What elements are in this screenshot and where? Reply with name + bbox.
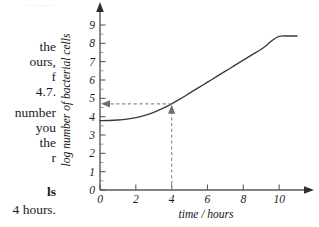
y-axis-tick-label: 8: [89, 37, 95, 49]
x-axis-title: time / hours: [179, 208, 234, 220]
vertical-guide-arrowhead: [168, 105, 175, 114]
body-text-line: the: [40, 40, 57, 54]
figure-page: ········· theours,f4.7.numberyoutherls4 …: [0, 0, 319, 227]
y-axis-tick-label: 2: [89, 147, 95, 159]
horizontal-guide-arrowhead: [101, 100, 110, 107]
x-axis-tick-label: 6: [205, 193, 211, 205]
x-axis-tick-label: 10: [273, 193, 285, 205]
y-axis-tick-label: 3: [88, 129, 95, 141]
faint-top-fragment: ·········: [25, 0, 56, 10]
y-axis-tick-label: 5: [89, 92, 95, 104]
y-axis-arrowhead: [96, 2, 104, 12]
body-text-line: ours,: [29, 55, 56, 69]
bacterial-growth-chart: 0123456789 0246810 log number of bacteri…: [56, 0, 319, 227]
x-axis-arrowhead: [304, 186, 314, 194]
y-axis-tick-label: 0: [89, 184, 95, 196]
x-axis-tick-label: 0: [97, 193, 103, 205]
x-axis-tick-label: 4: [169, 193, 175, 205]
y-axis-tick-label: 4: [89, 111, 95, 123]
y-axis-tick-label: 1: [89, 166, 95, 178]
y-axis-tick-label: 7: [89, 56, 96, 68]
y-axis-tick-label: 6: [89, 74, 95, 86]
y-axis-tick-labels: 0123456789: [88, 19, 96, 196]
x-axis-tick-label: 2: [133, 193, 139, 205]
body-text-line: you: [36, 121, 56, 135]
x-axis-tick-label: 8: [240, 193, 246, 205]
body-text-line: number: [15, 106, 56, 120]
y-axis-tick-label: 9: [89, 19, 95, 31]
body-text-line: ls: [47, 185, 56, 199]
chart-svg: 0123456789 0246810 log number of bacteri…: [56, 0, 319, 227]
body-text-column: ········· theours,f4.7.numberyoutherls4 …: [0, 0, 62, 227]
x-axis-tick-labels: 0246810: [97, 193, 285, 205]
growth-curve-line: [100, 36, 297, 121]
x-axis-ticks: [100, 185, 279, 191]
body-text-line: the: [40, 136, 57, 150]
body-text-line: 4.7.: [36, 85, 56, 99]
y-axis-title: log number of bacterial cells: [60, 33, 73, 166]
body-text-line: 4 hours.: [13, 203, 57, 217]
